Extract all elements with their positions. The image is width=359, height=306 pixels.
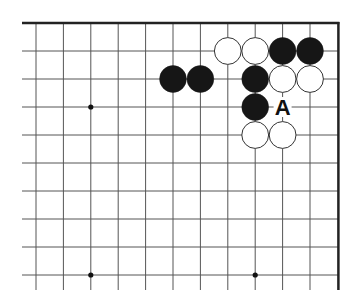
black-stone-icon bbox=[297, 38, 324, 65]
black-stone-icon bbox=[269, 38, 296, 65]
white-stone-icon bbox=[242, 122, 269, 149]
stones bbox=[160, 38, 324, 149]
white-stone-icon bbox=[297, 66, 324, 93]
black-stone-icon bbox=[160, 66, 187, 93]
board-grid bbox=[22, 22, 339, 290]
white-stone-icon bbox=[242, 38, 269, 65]
black-stone-icon bbox=[242, 66, 269, 93]
white-stone-icon bbox=[214, 38, 241, 65]
black-stone-icon bbox=[187, 66, 214, 93]
go-board: A bbox=[0, 0, 359, 306]
white-stone-icon bbox=[269, 122, 296, 149]
white-stone-icon bbox=[269, 66, 296, 93]
star-point-icon bbox=[88, 104, 93, 109]
star-point-icon bbox=[88, 272, 93, 277]
black-stone-icon bbox=[242, 94, 269, 121]
point-label-a: A bbox=[275, 95, 291, 120]
star-point-icon bbox=[253, 272, 258, 277]
markers: A bbox=[274, 95, 292, 120]
